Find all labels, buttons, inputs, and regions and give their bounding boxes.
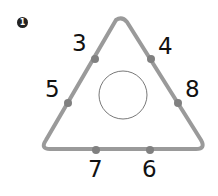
label-left-lower: 5 [45, 78, 60, 101]
label-left-upper: 3 [72, 32, 87, 55]
label-bottom-left: 7 [88, 158, 103, 181]
dot-bottom-left [92, 146, 100, 154]
dot-right-upper [147, 55, 155, 63]
dot-bottom-right [146, 146, 154, 154]
label-right-upper: 4 [158, 35, 173, 58]
label-right-lower: 8 [185, 78, 200, 101]
dot-left-upper [91, 55, 99, 63]
dot-left-lower [64, 99, 72, 107]
label-bottom-right: 6 [142, 158, 157, 181]
dot-right-lower [174, 99, 182, 107]
center-circle [99, 71, 147, 119]
triangle-outline [44, 18, 203, 149]
